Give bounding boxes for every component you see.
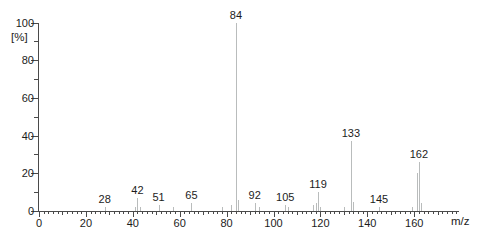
- mass-spectrum-chart: 0204060801001201401600204060801002842516…: [0, 0, 481, 244]
- peak-label-mz-105: 105: [276, 191, 294, 203]
- spectrum-canvas: 0204060801001201401600204060801002842516…: [0, 0, 481, 244]
- peak-label-mz-92: 92: [249, 189, 261, 201]
- peak-label-mz-84: 84: [230, 9, 242, 21]
- x-tick-label: 40: [127, 217, 139, 229]
- x-tick-label: 120: [311, 217, 329, 229]
- peak-label-mz-133: 133: [342, 127, 360, 139]
- y-tick-label: 20: [22, 167, 34, 179]
- peak-label-mz-145: 145: [370, 193, 388, 205]
- peak-label-mz-65: 65: [185, 189, 197, 201]
- peak-label-mz-51: 51: [152, 191, 164, 203]
- peak-label-mz-28: 28: [99, 193, 111, 205]
- x-tick-label: 0: [36, 217, 42, 229]
- y-tick-label: 0: [28, 205, 34, 217]
- x-tick-label: 140: [358, 217, 376, 229]
- x-tick-label: 80: [220, 217, 232, 229]
- y-tick-label: 80: [22, 54, 34, 66]
- y-tick-label: 100: [16, 17, 34, 29]
- peak-label-mz-162: 162: [410, 148, 428, 160]
- x-axis-unit-label: m/z: [451, 215, 470, 227]
- peak-label-mz-42: 42: [131, 184, 143, 196]
- x-tick-label: 100: [264, 217, 282, 229]
- y-axis-unit-label: [%]: [11, 31, 28, 43]
- peak-label-mz-119: 119: [309, 178, 327, 190]
- y-tick-label: 60: [22, 92, 34, 104]
- y-tick-label: 40: [22, 130, 34, 142]
- x-tick-label: 20: [80, 217, 92, 229]
- x-tick-label: 160: [405, 217, 423, 229]
- x-tick-label: 60: [174, 217, 186, 229]
